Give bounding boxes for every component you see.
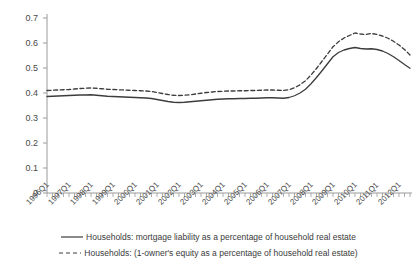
legend-label-owners-equity: Households: (1-owner's equity as a perce… — [84, 248, 357, 258]
y-tick-label: 0.6 — [12, 39, 38, 48]
chart-container: 00.10.20.30.40.50.60.7 1996Q11997Q11998Q… — [0, 0, 417, 270]
legend-swatch-dashed-icon — [59, 249, 81, 257]
legend-item-mortgage-liability: Households: mortgage liability as a perc… — [0, 229, 417, 245]
y-tick-label: 0.5 — [12, 64, 38, 73]
chart-legend: Households: mortgage liability as a perc… — [0, 229, 417, 261]
series-line-1 — [47, 48, 410, 103]
series-line-2 — [47, 33, 410, 96]
y-tick-label: 0.3 — [12, 114, 38, 123]
y-tick-label: 0.4 — [12, 89, 38, 98]
y-tick-label: 0.1 — [12, 164, 38, 173]
series-group — [47, 33, 410, 103]
y-tick-label: 0.2 — [12, 139, 38, 148]
axis-group — [43, 14, 412, 197]
legend-swatch-solid-icon — [61, 233, 83, 241]
legend-label-mortgage-liability: Households: mortgage liability as a perc… — [86, 232, 356, 242]
y-tick-label: 0.7 — [12, 14, 38, 23]
legend-item-owners-equity: Households: (1-owner's equity as a perce… — [0, 245, 417, 261]
